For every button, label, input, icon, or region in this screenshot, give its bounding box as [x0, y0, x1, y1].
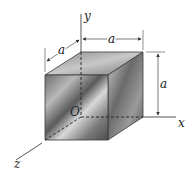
x-axis-label: x	[178, 116, 185, 130]
y-axis-label: y	[83, 9, 91, 23]
cube-diagram: y x z O a a a	[0, 0, 196, 176]
dim-depth-label: a	[58, 43, 65, 57]
dim-width-label: a	[108, 32, 115, 46]
z-axis-label: z	[13, 157, 21, 171]
dim-height-label: a	[160, 77, 167, 91]
origin-label: O	[70, 105, 80, 119]
